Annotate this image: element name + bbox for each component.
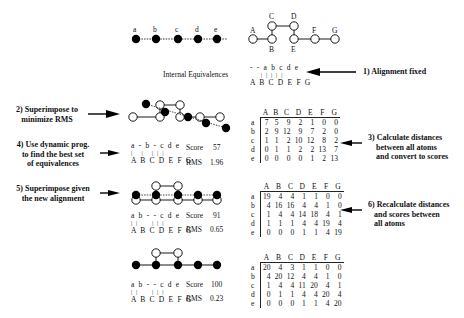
- step3-line3: and convert to scores: [368, 152, 464, 162]
- matrix-row: d01144204: [251, 290, 344, 299]
- cell: 0: [332, 263, 344, 273]
- cell: 4: [308, 201, 320, 210]
- cell: 4: [273, 192, 285, 202]
- step6-line3: all atoms: [368, 219, 464, 229]
- col-header: A: [260, 182, 272, 192]
- cell: 1: [296, 192, 308, 202]
- cell: 1: [296, 263, 308, 273]
- score-value: 91: [213, 211, 221, 220]
- alignment-3: a b - - c d e | | | | | A B C D E F G: [131, 280, 192, 304]
- cell: 19: [332, 228, 344, 237]
- cell: 2: [328, 136, 340, 145]
- step3-line1: 3) Calculate distances: [368, 133, 464, 143]
- cell: 0: [260, 145, 270, 154]
- col-header: G: [332, 253, 344, 263]
- cell: 1: [285, 290, 297, 299]
- cell: 1: [320, 201, 332, 210]
- cell: 0: [320, 192, 332, 202]
- cell: 9: [293, 127, 305, 136]
- alignment-2: a b - - c d e | | | | | A B C D E F G: [131, 211, 192, 235]
- cell: 4: [320, 228, 332, 237]
- cell: 0: [281, 154, 293, 163]
- atom-E: [290, 35, 298, 43]
- col-header: B: [273, 182, 285, 192]
- cell: 4: [308, 290, 320, 299]
- col-header: G: [328, 108, 340, 118]
- score-value: 57: [213, 143, 221, 152]
- col-header: A: [260, 108, 270, 118]
- step4-label: 4) Use dynamic prog. to find the best se…: [8, 140, 98, 169]
- target-chain: [249, 22, 339, 43]
- row-header: b: [251, 201, 260, 210]
- row-header: b: [251, 127, 260, 136]
- label-D: D: [291, 12, 296, 21]
- step5-line1: 5) Superimpose given: [8, 184, 98, 194]
- cell: 1: [273, 219, 285, 228]
- label-B: B: [269, 45, 274, 54]
- atom-C: [268, 22, 276, 30]
- atom-A: [249, 35, 257, 43]
- col-header: A: [260, 253, 272, 263]
- cell: 0: [328, 127, 340, 136]
- cell: 0: [332, 272, 344, 281]
- score-value: 100: [211, 280, 222, 289]
- cell: 9: [271, 127, 281, 136]
- score-matrix-2: A B C D E F G a19441100 b416164410 c1441…: [251, 182, 344, 237]
- col-header: B: [271, 108, 281, 118]
- atom-G: [331, 35, 339, 43]
- cell: 4: [308, 219, 320, 228]
- cell: 1: [260, 136, 270, 145]
- matrix-row: e00011419: [251, 228, 344, 237]
- cell: 14: [296, 210, 308, 219]
- atom-b: [152, 35, 160, 43]
- row-header: c: [251, 136, 260, 145]
- matrix-row: d01122137: [251, 145, 340, 154]
- cell: 12: [304, 136, 316, 145]
- cell: 13: [328, 154, 340, 163]
- col-header: E: [308, 253, 320, 263]
- cell: 13: [316, 145, 328, 154]
- cell: 1: [260, 210, 272, 219]
- row-header: e: [251, 299, 260, 308]
- cell: 0: [328, 118, 340, 128]
- cell: 2: [316, 127, 328, 136]
- cell: 1: [320, 272, 332, 281]
- row-header: e: [251, 154, 260, 163]
- cell: 11: [296, 281, 308, 290]
- cell: 4: [260, 272, 272, 281]
- arrow-step3: [340, 140, 362, 146]
- col-header: B: [273, 253, 285, 263]
- cell: 2: [260, 127, 270, 136]
- row-header: a: [251, 263, 260, 273]
- cell: 1: [271, 136, 281, 145]
- alignment-query-row: a b - - c d e: [131, 211, 192, 220]
- cell: 2: [304, 145, 316, 154]
- arrow-step2: [88, 110, 120, 118]
- cell: 20: [332, 299, 344, 308]
- rms-value: 0.23: [210, 294, 223, 303]
- label-F: F: [312, 26, 316, 35]
- cell: 19: [320, 219, 332, 228]
- arrow-step4: [100, 150, 120, 156]
- matrix-row: e00001213: [251, 154, 340, 163]
- cell: 0: [260, 154, 270, 163]
- col-header: D: [296, 182, 308, 192]
- cell: 20: [260, 263, 272, 273]
- cell: 0: [260, 290, 272, 299]
- matrix-row: b416164410: [251, 201, 344, 210]
- cell: 16: [273, 201, 285, 210]
- label-b: b: [153, 25, 157, 34]
- cell: 16: [285, 201, 297, 210]
- cell: 1: [308, 299, 320, 308]
- matrix-row: c144112041: [251, 281, 344, 290]
- cell: 4: [285, 210, 297, 219]
- cell: 1: [308, 192, 320, 202]
- label-E: E: [291, 45, 296, 54]
- step3-label: 3) Calculate distances between all atoms…: [368, 133, 464, 162]
- cell: 10: [293, 136, 305, 145]
- superposition-final: [132, 249, 221, 269]
- step4-line2: to find the best set: [8, 150, 98, 160]
- cell: 1: [304, 154, 316, 163]
- matrix-row: b420124410: [251, 272, 344, 281]
- score-matrix-1: A B C D E F G a7592100 b29129720 c112101…: [251, 108, 340, 163]
